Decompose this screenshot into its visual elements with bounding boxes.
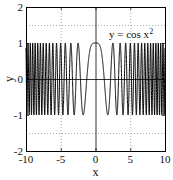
curve-cos-x-squared: [26, 43, 165, 115]
x-tick-label: 10: [160, 153, 172, 165]
x-tick-label: 5: [128, 153, 134, 165]
curve-annotation: y = cos x2: [109, 27, 153, 40]
y-tick-label: -2: [14, 145, 23, 157]
y-tick-label: 2: [18, 1, 24, 13]
y-tick-label: -1: [14, 109, 23, 121]
x-axis-title: x: [93, 165, 99, 179]
y-tick-label: 0: [18, 73, 24, 85]
x-tick-label: -5: [56, 153, 66, 165]
curve-annotation-text: y = cos x: [109, 28, 150, 40]
x-tick-labels: -10-50510: [19, 153, 171, 165]
x-tick-label: 0: [93, 153, 99, 165]
y-tick-label: 1: [18, 37, 24, 49]
curve-annotation-superscript: 2: [149, 27, 153, 36]
chart: -10-50510 -2-1012 x y y = cos x2: [0, 0, 173, 180]
y-axis-title: y: [2, 76, 16, 82]
